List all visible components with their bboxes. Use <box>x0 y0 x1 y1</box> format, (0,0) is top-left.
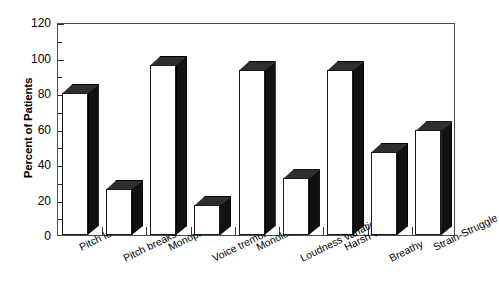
bar-front-face <box>62 93 88 235</box>
y-tick-label: 100 <box>21 53 51 65</box>
y-tick-mark-minor <box>58 77 62 78</box>
bar-front-face <box>415 130 441 235</box>
y-tick-label: 40 <box>21 159 51 171</box>
x-tick-separator <box>323 227 324 235</box>
plot-area <box>57 23 455 236</box>
bar-front-face <box>371 152 397 235</box>
bar-front-face <box>194 205 220 235</box>
bar <box>239 61 276 235</box>
bar-front-face <box>327 70 353 235</box>
bar-side-face <box>397 143 408 235</box>
bar-front-face <box>150 65 176 235</box>
bar-side-face <box>309 169 320 235</box>
x-category-label: Breathy <box>387 237 425 264</box>
y-tick-mark-major <box>58 60 64 61</box>
bar-front-face <box>283 178 309 235</box>
x-tick-separator <box>235 227 236 235</box>
bar <box>62 84 99 235</box>
bar-side-face <box>441 121 452 235</box>
bar-side-face <box>88 84 99 235</box>
y-tick-label: 20 <box>21 195 51 207</box>
y-tick-mark-minor <box>58 42 62 43</box>
bar-front-face <box>106 189 132 235</box>
y-tick-label: 80 <box>21 88 51 100</box>
bar-side-face <box>353 61 364 235</box>
bar-side-face <box>176 56 187 235</box>
bar-side-face <box>265 61 276 235</box>
bar <box>415 121 452 235</box>
bar <box>150 56 187 235</box>
bar <box>283 169 320 235</box>
bar-front-face <box>239 70 265 235</box>
y-tick-mark-major <box>58 24 64 25</box>
bar <box>194 196 231 235</box>
bar <box>327 61 364 235</box>
x-tick-separator <box>146 227 147 235</box>
y-tick-label: 120 <box>21 17 51 29</box>
y-tick-label: 60 <box>21 124 51 136</box>
y-tick-label: 0 <box>21 230 51 242</box>
x-tick-separator <box>412 227 413 235</box>
bar <box>106 180 143 235</box>
bar <box>371 143 408 235</box>
